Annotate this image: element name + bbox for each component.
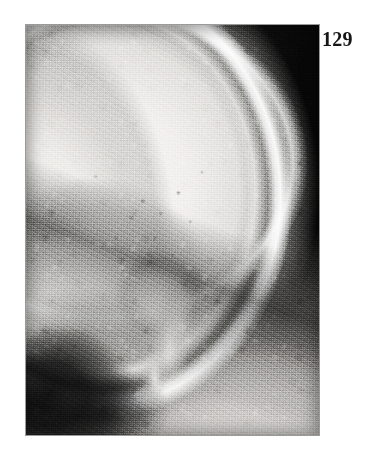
background-field-layer [25,24,320,436]
soft-tissue-neck-layer [25,24,320,436]
film-grain-layer [25,24,320,436]
figure-plate [25,24,320,436]
plate-vignette [25,24,320,436]
air-shadow-secondary-layer [25,24,320,436]
calvarial-vault-layer [25,24,320,436]
vault-crest-layer [25,24,320,436]
bone-mottling-layer [25,24,320,436]
outer-table-layer [25,24,320,436]
diploic-space-layer [25,24,320,436]
book-page: 129 [0,0,369,455]
skull-base-layer [25,24,320,436]
midface-shadow-layer [25,24,320,436]
temporal-region-layer [25,24,320,436]
bone-streak-c-layer [25,24,320,436]
lower-soft-tissue-layer [25,24,320,436]
lucent-foci-layer [25,24,320,436]
film-grain-fine-layer [25,24,320,436]
bone-streak-a-layer [25,24,320,436]
lateral-skull-radiograph [25,24,320,436]
neck-shadow-layer [25,24,320,436]
halftone-speckle-layer [25,24,320,436]
bone-streak-b-layer [25,24,320,436]
air-shadow-layer [25,24,320,436]
page-number: 129 [322,26,368,52]
petrous-mastoid-layer [25,24,320,436]
inner-table-layer [25,24,320,436]
